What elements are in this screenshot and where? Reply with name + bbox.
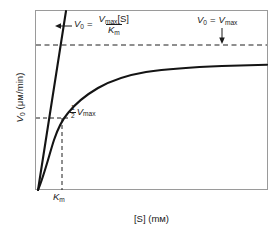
formula-numerator: Vmax[S] — [97, 14, 131, 24]
y-axis-variable: V — [14, 116, 25, 122]
half-vmax-sub: max — [83, 110, 95, 117]
formula-fraction: Vmax[S] Km — [97, 14, 131, 35]
vmax-asymptote-annotation: V0=Vmax — [197, 15, 237, 25]
formula-substrate: [S] — [117, 13, 129, 24]
vmax-label-equals: = — [210, 14, 216, 25]
half-denominator: 2 — [70, 112, 76, 120]
plot-frame — [35, 10, 268, 190]
x-axis-units: (mм) — [148, 213, 169, 224]
formula-vmax: V — [99, 13, 105, 24]
km-tick-sub: m — [59, 196, 65, 203]
half-vmax-annotation: 1 2 Vmax — [70, 105, 95, 119]
km-tick-label: Km — [53, 192, 65, 202]
formula-v-sub: 0 — [80, 23, 84, 30]
formula-denominator: Km — [106, 24, 122, 35]
y-axis-title: V0 (μм/min) — [14, 33, 25, 163]
formula-km-sub: m — [114, 29, 120, 36]
x-axis-variable: [S] — [134, 213, 146, 224]
formula-equals: = — [87, 19, 93, 29]
x-axis-title: [S] (mм) — [35, 213, 268, 224]
formula-lhs: V0 — [74, 19, 84, 29]
michaelis-menten-figure: V0 (μм/min) [S] (mм) V0 = Vmax[S] Km V0=… — [0, 0, 280, 236]
y-axis-subscript: 0 — [19, 112, 26, 116]
vmax-label-vmax-sub: max — [225, 19, 237, 26]
formula-vmax-sub: max — [105, 18, 117, 25]
vmax-label-v-sub: 0 — [203, 19, 207, 26]
initial-slope-formula-annotation: V0 = Vmax[S] Km — [74, 14, 132, 35]
half-fraction: 1 2 — [70, 105, 76, 119]
y-axis-units: (μм/min) — [14, 72, 25, 109]
half-numerator: 1 — [70, 105, 76, 112]
vmax-label-vmax: V — [219, 14, 225, 25]
